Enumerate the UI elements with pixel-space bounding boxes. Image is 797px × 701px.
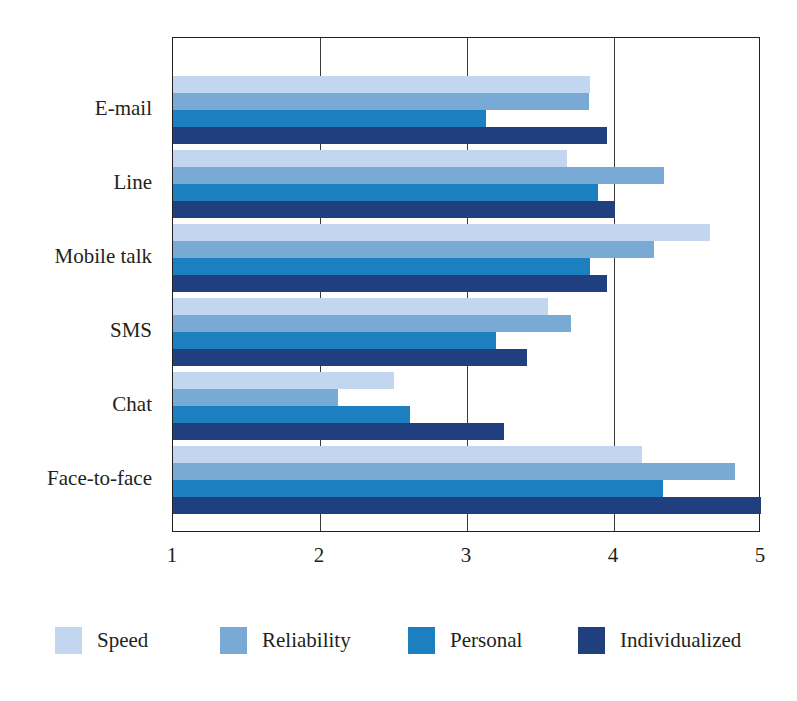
bar-e-mail-individualized [173, 127, 607, 144]
y-label-mobile-talk: Mobile talk [55, 246, 152, 267]
legend-label-reliability: Reliability [262, 630, 351, 651]
legend-swatch-reliability [220, 627, 247, 654]
bar-layer [173, 38, 759, 531]
bar-mobile-talk-reliability [173, 241, 654, 258]
y-label-sms: SMS [110, 320, 152, 341]
bar-chart-figure: E-mailLineMobile talkSMSChatFace-to-face… [0, 0, 797, 701]
legend-item-personal[interactable]: Personal [408, 620, 522, 660]
legend-item-individualized[interactable]: Individualized [578, 620, 741, 660]
legend-label-speed: Speed [97, 630, 148, 651]
bar-line-individualized [173, 201, 615, 218]
bar-face-to-face-speed [173, 446, 642, 463]
legend-item-reliability[interactable]: Reliability [220, 620, 351, 660]
legend-swatch-speed [55, 627, 82, 654]
bar-mobile-talk-personal [173, 258, 590, 275]
bar-line-speed [173, 150, 567, 167]
legend-label-individualized: Individualized [620, 630, 741, 651]
bar-face-to-face-personal [173, 480, 663, 497]
bar-line-personal [173, 184, 598, 201]
bar-sms-personal [173, 332, 496, 349]
bar-group-sms [173, 298, 759, 366]
bar-chat-reliability [173, 389, 338, 406]
bar-sms-individualized [173, 349, 527, 366]
legend-label-personal: Personal [450, 630, 522, 651]
bar-group-line [173, 150, 759, 218]
bar-mobile-talk-individualized [173, 275, 607, 292]
x-tick-label-4: 4 [608, 545, 619, 566]
legend-swatch-individualized [578, 627, 605, 654]
bar-mobile-talk-speed [173, 224, 710, 241]
chart-legend: SpeedReliabilityPersonalIndividualized [55, 620, 755, 660]
legend-swatch-personal [408, 627, 435, 654]
bar-sms-reliability [173, 315, 571, 332]
x-tick-label-2: 2 [314, 545, 325, 566]
plot-area [172, 37, 760, 532]
y-axis-category-labels: E-mailLineMobile talkSMSChatFace-to-face [0, 37, 162, 532]
bar-group-face-to-face [173, 446, 759, 514]
bar-line-reliability [173, 167, 664, 184]
bar-chat-personal [173, 406, 410, 423]
y-label-face-to-face: Face-to-face [47, 468, 152, 489]
y-label-chat: Chat [112, 394, 152, 415]
x-tick-label-5: 5 [755, 545, 766, 566]
y-label-line: Line [114, 172, 152, 193]
bar-chat-individualized [173, 423, 504, 440]
bar-group-chat [173, 372, 759, 440]
bar-group-e-mail [173, 76, 759, 144]
bar-group-mobile-talk [173, 224, 759, 292]
x-axis-tick-labels: 12345 [172, 545, 760, 579]
legend-item-speed[interactable]: Speed [55, 620, 148, 660]
bar-e-mail-personal [173, 110, 486, 127]
bar-e-mail-reliability [173, 93, 589, 110]
bar-sms-speed [173, 298, 548, 315]
x-tick-label-1: 1 [167, 545, 178, 566]
bar-face-to-face-reliability [173, 463, 735, 480]
bar-face-to-face-individualized [173, 497, 761, 514]
x-tick-label-3: 3 [461, 545, 472, 566]
bar-e-mail-speed [173, 76, 590, 93]
y-label-e-mail: E-mail [95, 98, 152, 119]
bar-chat-speed [173, 372, 394, 389]
